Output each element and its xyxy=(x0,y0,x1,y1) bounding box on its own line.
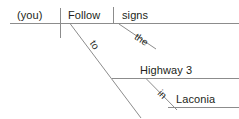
verb-label: Follow xyxy=(68,9,100,21)
preposition-in-object-label: Laconia xyxy=(176,93,215,105)
preposition-to-slant-line xyxy=(70,24,141,119)
subject-label: (you) xyxy=(17,9,43,21)
sentence-diagram: (you) Follow signs the to Highway 3 in L… xyxy=(0,0,239,118)
direct-object-label: signs xyxy=(122,9,148,21)
preposition-to-object-label: Highway 3 xyxy=(140,64,192,76)
